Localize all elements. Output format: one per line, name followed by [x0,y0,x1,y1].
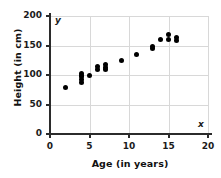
data-point [166,32,171,37]
gridline-vertical [208,16,209,134]
gridline-horizontal [50,105,208,106]
data-point [79,71,84,76]
x-axis-tick-label: 15 [154,142,184,151]
gridline-horizontal [50,46,208,47]
y-axis-tick-label: 150 [10,41,42,50]
data-point [158,37,163,42]
data-point [87,73,92,78]
x-axis-tick-label: 5 [75,142,105,151]
x-axis-tick [168,133,170,138]
y-axis-tick-label: 0 [10,129,42,138]
x-axis-tick [49,133,51,138]
x-axis-letter: x [198,119,204,129]
y-axis-tick [46,74,51,76]
y-axis-letter: y [55,15,61,25]
x-axis-tick-label: 10 [114,142,144,151]
y-axis-tick [46,104,51,106]
scatter-chart-figure: y x Age (in years) Height (in cm) 050100… [0,0,221,178]
data-point [134,52,139,57]
plot-area [50,16,208,134]
y-axis-tick-label: 200 [10,11,42,20]
data-point [150,44,155,49]
x-axis-title: Age (in years) [40,158,220,169]
y-axis-tick [46,15,51,17]
x-axis-line [49,133,212,135]
x-axis-tick [89,133,91,138]
x-axis-tick [128,133,130,138]
data-point [166,37,171,42]
data-point [63,85,68,90]
x-axis-tick-label: 0 [35,142,65,151]
y-axis-tick-label: 100 [10,70,42,79]
y-axis-title: Height (in cm) [12,9,23,127]
y-axis-tick [46,45,51,47]
x-axis-tick-label: 20 [193,142,221,151]
data-point [119,58,124,63]
gridline-horizontal [50,75,208,76]
y-axis-tick-label: 50 [10,100,42,109]
x-axis-tick [207,133,209,138]
gridline-horizontal [50,16,208,17]
